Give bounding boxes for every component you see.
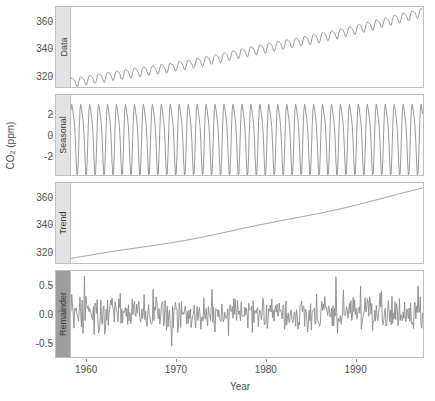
y-tick-label: 360 [19,15,53,26]
y-tick-label: -0.5 [19,337,53,348]
x-tick-mark [266,359,267,362]
y-tick-label: -2 [19,151,53,162]
panel-trend: Trend [55,182,424,264]
stl-decomposition-chart: CO2 (ppm) Data Seasonal Trend Remainder … [0,0,435,401]
strip-label-remainder-text: Remainder [58,292,68,336]
y-tick-mark [50,48,53,49]
strip-label-remainder: Remainder [56,271,71,357]
y-tick-label: 320 [19,70,53,81]
y-tick-mark [50,343,53,344]
plot-area-trend [71,183,423,263]
x-tick-mark [86,359,87,362]
strip-label-trend: Trend [56,183,71,263]
strip-label-seasonal: Seasonal [56,95,71,175]
plot-area-data [71,7,423,87]
x-tick-label: 1980 [255,364,277,375]
y-tick-mark [50,76,53,77]
y-tick-label: 340 [19,43,53,54]
strip-label-seasonal-text: Seasonal [58,116,68,154]
y-tick-label: 0 [19,130,53,141]
y-tick-label: 320 [19,246,53,257]
x-axis-label: Year [55,381,425,392]
y-tick-mark [50,197,53,198]
plot-area-seasonal [71,95,423,175]
x-tick-label: 1990 [345,364,367,375]
y-tick-mark [50,224,53,225]
y-axis-label-unit: (ppm) [5,122,16,151]
y-axis-label-base: CO [5,154,16,169]
plot-area-remainder [71,271,423,357]
strip-label-trend-text: Trend [58,211,68,234]
y-tick-label: 0.5 [19,280,53,291]
y-tick-mark [50,252,53,253]
x-tick-mark [176,359,177,362]
y-tick-mark [50,285,53,286]
y-tick-label: 340 [19,219,53,230]
y-tick-mark [50,114,53,115]
y-tick-label: 360 [19,191,53,202]
y-axis-label-subscript: 2 [9,151,16,155]
x-tick-label: 1970 [165,364,187,375]
y-tick-mark [50,156,53,157]
y-axis-label: CO2 (ppm) [5,86,16,206]
y-tick-mark [50,135,53,136]
strip-label-data: Data [56,7,71,87]
strip-label-data-text: Data [58,37,68,56]
y-tick-mark [50,314,53,315]
x-tick-mark [356,359,357,362]
y-tick-mark [50,21,53,22]
y-tick-label: 2 [19,108,53,119]
x-tick-label: 1960 [75,364,97,375]
panel-remainder: Remainder [55,270,424,358]
panel-data: Data [55,6,424,88]
y-tick-label: 0.0 [19,309,53,320]
panel-seasonal: Seasonal [55,94,424,176]
